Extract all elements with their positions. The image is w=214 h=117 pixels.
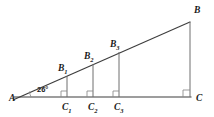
geometry-figure: 26° A B C B1 B2 B3 C1 C2 C3 [0, 0, 214, 117]
geometry-canvas: 26° A B C B1 B2 B3 C1 C2 C3 [0, 0, 214, 117]
point-label-c3: C3 [114, 102, 124, 114]
point-label-b3: B3 [109, 39, 120, 51]
right-angle-mark-c3 [113, 91, 119, 97]
point-label-b2: B2 [83, 51, 94, 63]
point-label-b1: B1 [57, 63, 68, 75]
vertex-label-c: C [196, 93, 203, 103]
right-angle-mark-c2 [87, 91, 93, 97]
angle-label-26: 26° [37, 85, 48, 94]
point-label-c2: C2 [88, 102, 98, 114]
vertex-label-b: B [193, 5, 200, 15]
point-label-c1: C1 [62, 102, 72, 114]
right-angle-mark-c [183, 90, 190, 97]
right-angle-mark-c1 [61, 91, 67, 97]
vertex-label-a: A [8, 93, 15, 103]
